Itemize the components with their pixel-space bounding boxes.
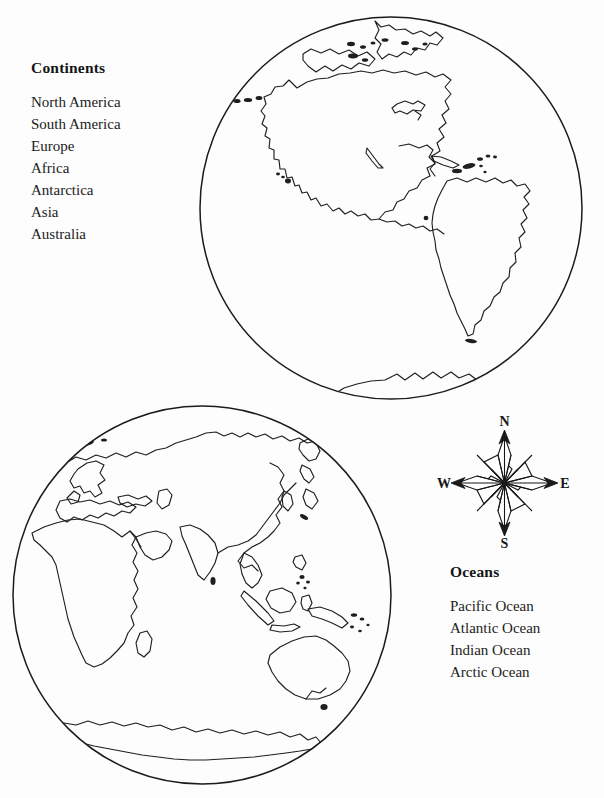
list-item: Atlantic Ocean [450,617,540,639]
compass-label-west: W [437,476,451,491]
coastline-java [270,624,300,632]
coastline-philippines [293,555,306,570]
list-item: Arctic Ocean [450,661,540,683]
list-item: North America [31,91,121,113]
compass-label-north: N [499,416,509,429]
coastline-borneo [266,588,296,613]
compass-label-south: S [501,536,509,550]
coastline-south-america [432,178,530,336]
coastline-australia [268,636,350,699]
list-item: Asia [31,201,121,223]
great-lakes [392,101,425,114]
coastline-sumatra [241,591,274,625]
list-item: Australia [31,223,121,245]
list-item: Antarctica [31,179,121,201]
coastline-india [180,525,218,580]
oceans-legend-title: Oceans [450,563,540,581]
coastline-china-east [238,463,284,571]
coastline-korea [282,491,293,511]
coastline-africa [32,519,138,667]
coastline-arabia [136,531,172,560]
list-item: South America [31,113,121,135]
compass-rose: N S E W [437,416,572,550]
globe-eastern-hemisphere [12,405,393,786]
continents-legend-title: Continents [31,59,121,77]
great-lakes-detail [415,111,421,120]
list-item: Africa [31,157,121,179]
list-item: Europe [31,135,121,157]
eastern-landmasses [32,432,384,760]
coastline-antarctica [52,721,322,760]
coastline-baja [366,148,383,168]
globe-outline-circle [13,406,391,784]
coastline-madagascar [136,631,152,657]
coastline-british-isles [67,491,80,504]
coastline-caspian-sea [157,489,172,509]
coastline-new-guinea [308,607,348,628]
compass-label-east: E [560,476,569,491]
coastline-north-america [261,70,451,220]
oceans-list: Pacific Ocean Atlantic Ocean Indian Ocea… [450,595,540,683]
coastline-gulf [399,144,435,176]
worksheet-page: Continents North America South America E… [0,0,604,798]
continents-list: North America South America Europe Afric… [31,91,121,245]
compass-center [502,481,507,486]
oceans-legend: Oceans Pacific Ocean Atlantic Ocean Indi… [450,563,540,683]
coastline-east-asia [218,483,296,553]
coastline-siberia-north [66,432,336,463]
coastline-japan [300,465,314,483]
coastline-indochina [240,553,262,588]
coastline-cuba [431,156,459,168]
list-item: Pacific Ocean [450,595,540,617]
globe-western-hemisphere [199,16,583,400]
coastline-europe [56,499,136,522]
coastline-central-america [379,219,444,234]
coastline-japan-honshu [303,489,318,509]
continents-legend: Continents North America South America E… [31,59,121,245]
coastline-antarctic-peninsula [477,378,491,386]
western-landmasses [206,21,530,412]
coastline-black-sea [118,495,152,507]
list-item: Indian Ocean [450,639,540,661]
